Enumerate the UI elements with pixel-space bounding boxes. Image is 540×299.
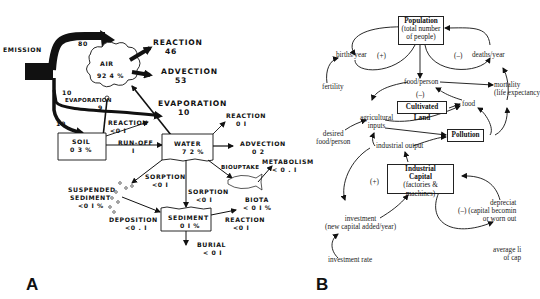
desired-food-line2: food/person — [316, 138, 350, 146]
sediment-percent: 0 I % — [180, 222, 200, 230]
air-reaction-label: REACTION — [153, 38, 203, 47]
suspended-sediment-value: <0 I % — [78, 202, 104, 210]
investment-line2: (new capital added/year) — [325, 223, 396, 231]
industrial-capital-box: Industrial Capital (factories & machines… — [387, 164, 454, 194]
sorption-suspended-value: <0 I — [152, 181, 168, 189]
fertility-label: fertility — [322, 83, 344, 91]
industrial-capital-line1: Industrial — [405, 165, 436, 173]
sorption-sediment-label: SORPTION — [188, 188, 229, 196]
sorption-sediment-value: <0 I — [196, 196, 212, 204]
water-reaction-label: REACTION — [226, 112, 266, 120]
mortality-line2: (life expectancy — [494, 89, 540, 97]
emission-to-air-value: 80 — [78, 40, 88, 48]
births-label: births/year — [336, 51, 367, 59]
soil-reaction-value: <0 I — [110, 127, 126, 135]
emission-to-water-value: 10 — [62, 89, 72, 97]
depreciation-sign: (–) — [458, 207, 466, 215]
sorption-suspended-label: SORPTION — [145, 173, 186, 181]
mortality-line1: mortality — [494, 81, 520, 89]
industrial-output-label: industrial output — [376, 142, 423, 150]
population-line2: of people) — [406, 33, 435, 41]
pollution-title: Pollution — [452, 131, 480, 139]
biouptake-label: BIOUPTAKE — [221, 164, 259, 172]
air-advection-label: ADVECTION — [161, 67, 218, 76]
investment-rate-label: investment rate — [328, 256, 372, 264]
water-label: WATER — [174, 140, 201, 148]
depreciation-label: depreciat (–) (capital becomin or worn o… — [458, 199, 516, 223]
water-advection-value: 0 2 — [252, 148, 265, 156]
fish-icon — [228, 174, 262, 190]
population-box: Population (total number of people) — [398, 16, 444, 45]
panel-a-label: A — [26, 275, 38, 295]
births-loop-sign: (+) — [377, 52, 386, 60]
metabolism-value: < 0 . I — [272, 166, 297, 174]
food-per-person-label: food/person — [404, 78, 438, 86]
emission-label: EMISSION — [3, 46, 42, 54]
cultivated-land-box: Cultivated Land — [397, 101, 447, 114]
food-label: food — [462, 100, 475, 108]
investment-label: investment (new capital added/year) — [325, 215, 396, 231]
capital-loop-sign: (+) — [370, 178, 379, 186]
population-title: Population — [404, 17, 438, 25]
industrial-capital-line3: (factories & machines) — [403, 181, 438, 197]
desired-food-line1: desired — [323, 130, 344, 138]
depreciation-line1: depreciat — [490, 199, 516, 207]
pollution-box: Pollution — [447, 129, 484, 142]
deaths-label: deaths/year — [472, 51, 505, 59]
burial-value: < 0 I — [203, 249, 222, 257]
sediment-label: SEDIMENT — [168, 214, 209, 222]
average-lifetime-line1: average li — [493, 246, 521, 254]
soil-reaction-label: REACTION — [108, 119, 148, 127]
depreciation-line2: (capital becomin — [468, 207, 516, 215]
depreciation-line3: or worn out — [483, 215, 517, 223]
air-label: AIR — [100, 60, 114, 68]
desired-food-label: desired food/person — [316, 130, 350, 146]
panel-a-diagram — [25, 30, 272, 245]
burial-label: BURIAL — [197, 241, 226, 249]
air-reaction-value: 46 — [165, 47, 177, 56]
average-lifetime-label: average li of cap — [493, 246, 521, 262]
population-line1: (total number — [402, 25, 441, 33]
agricultural-inputs-label: agricultural inputs — [360, 114, 393, 130]
agricultural-inputs-line2: inputs — [368, 122, 386, 130]
sediment-reaction-label: REACTION — [225, 216, 265, 224]
average-lifetime-line2: of cap — [503, 254, 521, 262]
water-evaporation-value: 10 — [178, 108, 190, 117]
investment-line1: investment — [345, 215, 377, 223]
metabolism-label: METABOLISM — [262, 158, 314, 166]
soil-evaporation-label: EVAPORATION — [65, 97, 112, 105]
deposition-label: DEPOSITION — [109, 216, 158, 224]
deaths-loop-sign: (–) — [454, 52, 462, 60]
suspended-sediment-label-1: SUSPENDED — [68, 186, 116, 194]
food-loop-sign: (–) — [416, 91, 424, 99]
sediment-reaction-value: <0 I — [233, 224, 249, 232]
runoff-label: RUN-OFF — [118, 139, 153, 147]
air-percent: 92 4 % — [97, 72, 124, 80]
mortality-label: mortality (life expectancy — [494, 81, 540, 97]
soil-evaporation-value: 9 — [98, 104, 103, 112]
suspended-sediment-label-2: SEDIMENT — [70, 194, 111, 202]
air-advection-value: 53 — [175, 76, 187, 85]
agricultural-inputs-line1: agricultural — [360, 114, 393, 122]
water-advection-label: ADVECTION — [240, 140, 286, 148]
deposition-value: <0 . I — [125, 224, 147, 232]
water-reaction-value: 0 I — [236, 120, 247, 128]
water-evaporation-label: EVAPORATION — [158, 99, 227, 108]
runoff-value: I — [132, 147, 135, 155]
biota-value: < 0 I % — [243, 204, 272, 212]
soil-label: SOIL — [72, 138, 90, 146]
panel-b-label: B — [316, 275, 328, 295]
industrial-capital-line2: Capital — [409, 173, 432, 181]
soil-percent: 0 3 % — [70, 146, 92, 154]
biota-label: BIOTA — [245, 196, 269, 204]
water-percent: 7 2 % — [182, 148, 204, 156]
emission-to-soil-value: 10 — [56, 120, 66, 128]
